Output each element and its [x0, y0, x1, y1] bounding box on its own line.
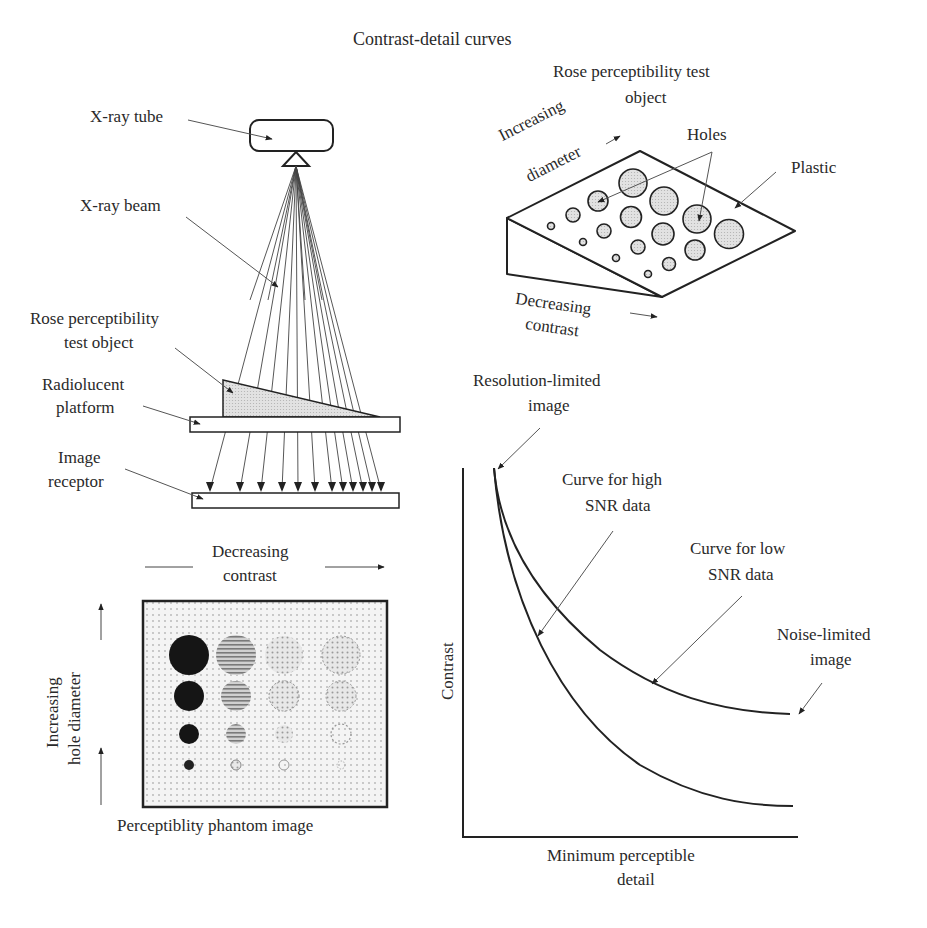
label-rose-object-2: object: [625, 87, 667, 108]
label-resolution-limited-1: Resolution-limited: [473, 370, 601, 391]
label-phantom-increasing: Increasing: [42, 677, 63, 748]
figure-title: Contrast-detail curves: [353, 29, 511, 50]
chart-y-axis-label: Contrast: [437, 642, 458, 700]
phantom-image: [101, 567, 387, 807]
label-receptor-2: receptor: [48, 471, 104, 492]
chart-x-axis-label-1: Minimum perceptible: [547, 845, 695, 866]
label-resolution-limited-2: image: [528, 395, 570, 416]
label-holes: Holes: [687, 124, 727, 145]
xray-beam-rays: [210, 166, 381, 490]
image-receptor: [192, 493, 399, 508]
label-plastic: Plastic: [791, 157, 836, 178]
test-object-wedge: [223, 380, 380, 417]
xray-tube-shape: [250, 120, 333, 151]
label-phantom-decreasing: Decreasing: [212, 541, 288, 562]
label-rose-object-1: Rose perceptibility test: [553, 61, 710, 82]
label-phantom-contrast: contrast: [223, 565, 277, 586]
label-noise-limited-1: Noise-limited: [777, 624, 870, 645]
label-high-snr-1: Curve for high: [562, 469, 662, 490]
label-xray-beam: X-ray beam: [80, 195, 161, 216]
radiolucent-platform: [190, 417, 400, 432]
label-xray-tube: X-ray tube: [90, 106, 163, 127]
label-high-snr-2: SNR data: [585, 495, 651, 516]
xray-tube-focal-triangle: [283, 152, 309, 166]
label-platform-2: platform: [56, 397, 115, 418]
label-test-object-2: test object: [64, 332, 133, 353]
label-low-snr-1: Curve for low: [690, 538, 785, 559]
label-test-object-1: Rose perceptibility: [30, 308, 159, 329]
chart-x-axis-label-2: detail: [617, 869, 655, 890]
curve-high-snr: [494, 468, 793, 806]
ray-arrowheads: [206, 482, 385, 492]
label-platform-1: Radiolucent: [42, 374, 124, 395]
label-receptor-1: Image: [58, 447, 100, 468]
label-noise-limited-2: image: [810, 649, 852, 670]
diagram-canvas: [0, 0, 927, 928]
label-phantom-hole-diameter: hole diameter: [64, 672, 85, 765]
xray-setup: [125, 120, 400, 508]
phantom-caption: Perceptiblity phantom image: [117, 815, 313, 836]
label-low-snr-2: SNR data: [708, 564, 774, 585]
